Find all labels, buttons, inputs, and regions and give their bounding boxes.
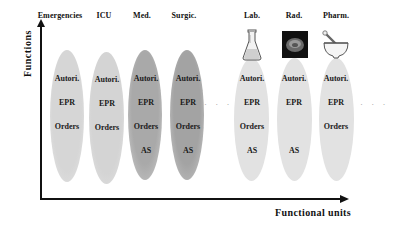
- function-label: EPR: [328, 98, 344, 107]
- function-label: Autori.: [176, 74, 201, 83]
- x-axis-label: Functional units: [275, 207, 351, 218]
- mortar-pestle-icon: [322, 30, 350, 60]
- flask-icon: [241, 29, 263, 61]
- function-label: AS: [289, 146, 299, 155]
- more-units-dots: · · ·: [204, 99, 233, 109]
- unit-title-rad: Rad.: [286, 11, 303, 20]
- function-label: Orders: [134, 122, 158, 131]
- function-label: EPR: [286, 98, 302, 107]
- function-label: Autori.: [55, 74, 80, 83]
- function-label: EPR: [59, 98, 75, 107]
- function-label: Autori.: [240, 74, 265, 83]
- function-label: EPR: [138, 98, 154, 107]
- more-units-dots-end: · · ·: [360, 99, 389, 109]
- unit-ellipse-emergencies: [50, 50, 84, 182]
- function-label: Autori.: [134, 74, 159, 83]
- unit-title-lab: Lab.: [244, 11, 260, 20]
- function-label: Orders: [95, 123, 119, 132]
- unit-ellipse-icu: [89, 52, 124, 184]
- function-label: EPR: [99, 99, 115, 108]
- function-label: Orders: [176, 122, 200, 131]
- y-axis-label: Functions: [22, 29, 33, 79]
- y-axis: [40, 26, 42, 200]
- unit-title-emergencies: Emergencies: [38, 11, 83, 20]
- function-label: AS: [183, 146, 193, 155]
- unit-title-icu: ICU: [97, 11, 112, 20]
- radiology-scan-icon: [282, 31, 308, 58]
- y-axis-arrow-icon: [37, 19, 45, 27]
- unit-ellipse-surgic: [170, 50, 204, 180]
- function-label: AS: [247, 146, 257, 155]
- function-label: Autori.: [324, 74, 349, 83]
- function-label: Autori.: [95, 75, 120, 84]
- function-label: EPR: [244, 98, 260, 107]
- unit-title-surgic: Surgic.: [172, 11, 197, 20]
- function-label: Orders: [55, 122, 79, 131]
- function-label: AS: [141, 146, 151, 155]
- x-axis-arrow-icon: [340, 195, 349, 203]
- unit-title-pharm: Pharm.: [323, 11, 349, 20]
- x-axis: [40, 198, 342, 200]
- function-label: Orders: [324, 122, 348, 131]
- function-label: EPR: [180, 98, 196, 107]
- unit-title-med: Med.: [133, 11, 151, 20]
- function-label: Orders: [240, 122, 264, 131]
- unit-ellipse-med: [128, 50, 162, 180]
- function-label: Autori.: [282, 74, 307, 83]
